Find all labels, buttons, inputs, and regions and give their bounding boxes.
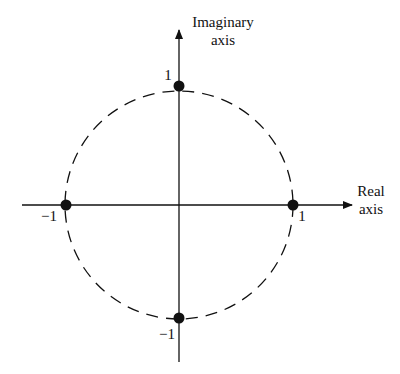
unit-circle-diagram: Imaginary axis Real axis 1 1 −1 −1 (0, 0, 400, 374)
point-bottom (174, 313, 185, 324)
point-top-label: 1 (164, 67, 172, 83)
point-left-label: −1 (41, 208, 57, 224)
point-right (288, 200, 299, 211)
point-top (174, 81, 185, 92)
imaginary-axis-label-line2: axis (211, 32, 235, 48)
imaginary-axis-label-line1: Imaginary (192, 14, 254, 30)
real-axis-label-line2: axis (359, 201, 383, 217)
real-axis-label-line1: Real (357, 183, 385, 199)
point-left (61, 200, 72, 211)
point-right-label: 1 (298, 208, 306, 224)
point-bottom-label: −1 (159, 326, 175, 342)
